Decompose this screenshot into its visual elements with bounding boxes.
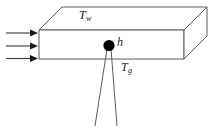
gas-temperature-subscript: g [128,66,132,75]
flow-arrow-top [6,30,38,37]
thermocouple-bead [103,40,114,51]
lead-wire-right [111,49,117,126]
flow-arrows [6,30,38,62]
diagram-canvas [0,0,221,133]
slab-top-face [39,7,207,30]
wall-temperature-subscript: w [86,14,91,23]
wall-temperature-label: Tw [79,9,91,21]
lead-wire-left [95,49,107,126]
flow-arrow-bottom [6,55,38,62]
rectangular-duct-slab [39,7,207,59]
thermocouple-diagram: Tw h Tg [0,0,221,133]
flow-arrow-middle [6,43,38,50]
heat-transfer-coefficient-label: h [117,36,123,48]
gas-temperature-label: Tg [121,61,132,73]
thermocouple-lead-wires [95,49,117,126]
